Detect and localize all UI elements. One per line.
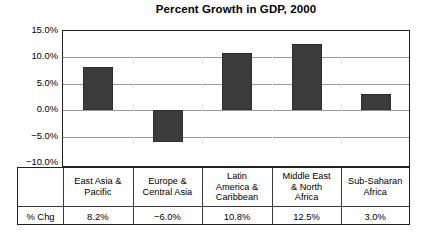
bar-sub-saharan-africa[interactable] (361, 94, 391, 110)
y-tick-label-2: 5.0% (6, 78, 58, 88)
table-corner-cell (18, 168, 63, 206)
column-separator-2 (202, 31, 203, 166)
data-table: East Asia &Pacific Europe &Central Asia … (17, 167, 410, 225)
y-tick-label-0: 15.0% (6, 25, 58, 35)
gdp-growth-chart-figure: Percent Growth in GDP, 2000 15.0% 10.0% … (0, 0, 427, 237)
table-header-middle-east-north-africa: Middle East& NorthAfrica (272, 168, 342, 206)
y-axis: 15.0% 10.0% 5.0% 0.0% −5.0% −10.0% (4, 30, 58, 167)
column-separator-3 (272, 31, 273, 166)
column-separator-4 (341, 31, 342, 166)
table-header-east-asia-pacific: East Asia &Pacific (63, 168, 133, 206)
table-header-latin-america-caribbean: LatinAmerica &Caribbean (202, 168, 272, 206)
chart-title: Percent Growth in GDP, 2000 (62, 3, 410, 15)
y-tick-label-4: −5.0% (6, 131, 58, 141)
bar-middle-east-north-africa[interactable] (292, 44, 322, 110)
bar-latin-america-caribbean[interactable] (222, 53, 252, 110)
plot-area (62, 30, 410, 167)
table-header-sub-saharan-africa: Sub-SaharanAfrica (341, 168, 409, 206)
gridline-0 (63, 110, 409, 111)
table-value-sub-saharan-africa: 3.0% (341, 207, 409, 225)
y-tick-label-3: 0.0% (6, 104, 58, 114)
bar-east-asia-pacific[interactable] (83, 67, 113, 110)
y-tick-label-5: −10.0% (6, 157, 58, 167)
bar-europe-central-asia[interactable] (153, 110, 183, 142)
table-row-header-pct-chg: % Chg (18, 207, 63, 225)
table-header-europe-central-asia: Europe &Central Asia (133, 168, 203, 206)
table-value-east-asia-pacific: 8.2% (63, 207, 133, 225)
table-value-middle-east-north-africa: 12.5% (272, 207, 342, 225)
table-value-latin-america-caribbean: 10.8% (202, 207, 272, 225)
gridline-neg5 (63, 137, 409, 138)
table-value-europe-central-asia: −6.0% (133, 207, 203, 225)
column-separator-1 (133, 31, 134, 166)
y-tick-label-1: 10.0% (6, 51, 58, 61)
